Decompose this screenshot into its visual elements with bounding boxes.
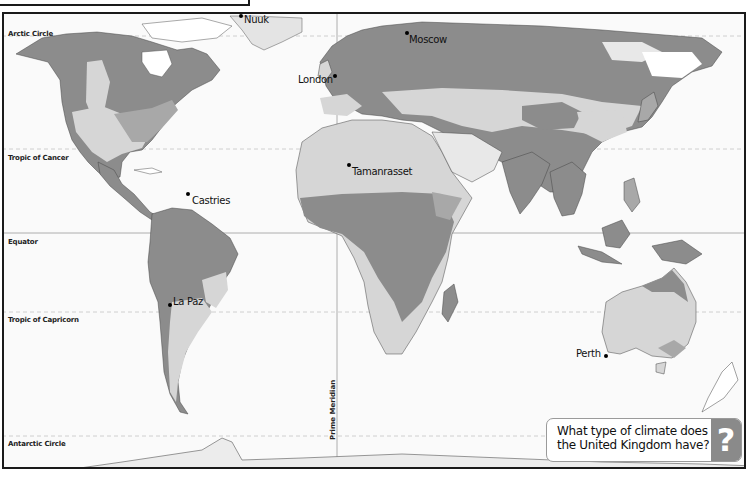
city-label-moscow: Moscow: [409, 34, 447, 45]
la-paz-marker: [168, 303, 172, 307]
city-label-castries: Castries: [192, 195, 230, 206]
perth-marker: [604, 354, 608, 358]
question-text: What type of climate does the United Kin…: [557, 424, 709, 452]
question-box: What type of climate does the United Kin…: [546, 418, 742, 462]
tamanrasset-marker: [347, 163, 351, 167]
prime-meridian-label: Prime Meridian: [329, 380, 337, 440]
antarctic-circle-label: Antarctic Circle: [8, 440, 66, 448]
city-label-nuuk: Nuuk: [244, 14, 269, 25]
arctic-circle-label: Arctic Circle: [8, 30, 53, 38]
equator-label: Equator: [8, 238, 38, 246]
city-label-tamanrasset: Tamanrasset: [352, 166, 412, 177]
tropic-of-capricorn-label: Tropic of Capricorn: [8, 316, 79, 324]
london-marker: [333, 74, 337, 78]
question-line-2: the United Kingdom have?: [557, 438, 709, 452]
map-canvas: [4, 14, 746, 469]
question-line-1: What type of climate does: [557, 424, 709, 438]
world-climate-map: Arctic Circle Tropic of Cancer Equator T…: [2, 12, 746, 469]
question-mark-icon: ?: [711, 419, 741, 461]
city-label-london: London: [298, 74, 333, 85]
nuuk-marker: [239, 14, 243, 18]
tropic-of-cancer-label: Tropic of Cancer: [8, 154, 69, 162]
city-label-perth: Perth: [576, 348, 601, 359]
city-label-la-paz: La Paz: [173, 296, 203, 307]
castries-marker: [186, 192, 190, 196]
title-box: [0, 0, 250, 6]
